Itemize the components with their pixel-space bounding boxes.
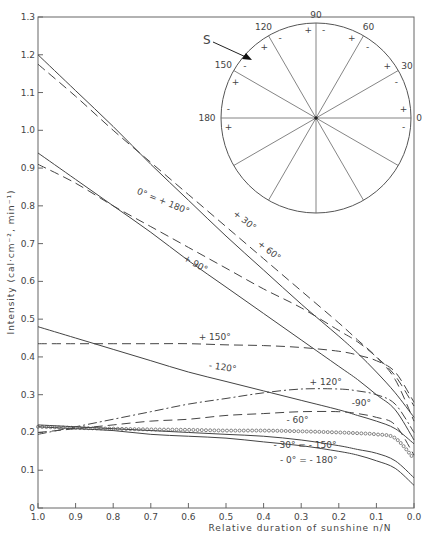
y-tick-label: 0.5: [21, 314, 35, 324]
x-tick-label: 0.9: [68, 512, 83, 522]
y-tick-label: 0.1: [21, 465, 35, 475]
series-label: 0° = + 180°: [136, 186, 191, 216]
x-axis: 1.00.90.80.70.60.50.40.30.20.10.0: [31, 503, 422, 522]
series--60-: [37, 425, 415, 459]
series--120-: [38, 327, 414, 444]
series--30-150-: [38, 425, 414, 478]
x-tick-label: 0.5: [219, 512, 233, 522]
x-tick-label: 0.6: [181, 512, 196, 522]
x-tick-label: 0.0: [407, 512, 422, 522]
series--90-: [38, 411, 414, 455]
plus-marker: +: [348, 33, 356, 43]
series-label: + 30°: [231, 208, 258, 232]
dial-angle-label: 0: [416, 113, 422, 123]
y-tick-label: 0.9: [21, 163, 36, 173]
y-tick-label: 0.8: [21, 201, 36, 211]
annotations: + 30°+ 60°0° = + 180°+ 90°+ 150°- 120°+ …: [136, 186, 371, 465]
minus-marker: -: [279, 33, 282, 43]
x-tick-label: 0.3: [294, 512, 308, 522]
x-tick-label: 0.7: [144, 512, 158, 522]
series-label: + 150°: [199, 332, 231, 342]
series-label: - 120°: [208, 360, 237, 374]
plus-marker: +: [261, 42, 269, 52]
x-axis-label: Relative duration of sunshine n/N: [209, 523, 392, 533]
y-axis-label: Intensity (cal·cm⁻², min⁻¹): [6, 189, 16, 334]
series--90-: [38, 153, 414, 440]
series-label: - 60°: [286, 415, 308, 425]
minus-marker: -: [227, 104, 230, 114]
series-label: - 30° = - 150°: [273, 440, 336, 450]
y-tick-label: 0.4: [21, 352, 36, 362]
y-tick-label: 0.6: [21, 276, 36, 286]
minus-marker: -: [395, 77, 398, 87]
plus-marker: +: [400, 104, 408, 114]
series--150-: [38, 344, 414, 403]
orientation-dial-inset: 0+-30+-60+-90+-120+-150+-180+-S: [198, 10, 422, 213]
plus-marker: +: [225, 122, 233, 132]
minus-marker: -: [402, 122, 405, 132]
y-tick-label: 0.3: [21, 390, 35, 400]
y-tick-label: 1.1: [21, 88, 35, 98]
plus-marker: +: [232, 77, 240, 87]
dial-angle-label: 90: [310, 10, 322, 20]
x-tick-label: 0.4: [256, 512, 271, 522]
series-label: + 90°: [182, 253, 210, 275]
dial-angle-label: 180: [198, 113, 215, 123]
series-label: - 0° = - 180°: [280, 455, 337, 465]
dial-center: [314, 116, 318, 120]
south-marker: S: [203, 33, 211, 47]
y-axis: 00.10.20.30.40.50.60.70.80.91.01.11.21.3: [21, 12, 43, 513]
x-tick-label: 0.8: [106, 512, 121, 522]
y-tick-label: 0.7: [21, 239, 35, 249]
series--0-180-: [38, 427, 414, 486]
plus-marker: +: [305, 25, 313, 35]
x-tick-label: 1.0: [31, 512, 46, 522]
dial-angle-label: 150: [215, 60, 232, 70]
series-label: -90°: [352, 398, 371, 408]
dial-angle-label: 120: [255, 22, 272, 32]
series-group: [37, 55, 415, 486]
chart: 00.10.20.30.40.50.60.70.80.91.01.11.21.3…: [0, 0, 432, 542]
dial-angle-label: 30: [401, 61, 413, 71]
plus-marker: +: [383, 61, 391, 71]
y-tick-label: 1.3: [21, 12, 35, 22]
minus-marker: -: [322, 25, 325, 35]
series-label: + 120°: [310, 377, 342, 387]
y-tick-label: 0.2: [21, 427, 35, 437]
minus-marker: -: [243, 61, 246, 71]
x-tick-label: 0.1: [369, 512, 383, 522]
series-label: + 60°: [256, 239, 283, 263]
x-tick-label: 0.2: [332, 512, 346, 522]
y-tick-label: 1.0: [21, 125, 36, 135]
minus-marker: -: [366, 42, 369, 52]
dial-angle-label: 60: [363, 22, 375, 32]
y-tick-label: 1.2: [21, 50, 35, 60]
